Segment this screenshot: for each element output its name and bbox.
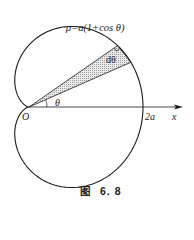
- caption-prefix: 图: [80, 186, 91, 197]
- theta-label: θ: [55, 98, 60, 108]
- x-axis-label: x: [172, 112, 176, 122]
- caption-number: 6. 8: [100, 185, 122, 197]
- origin-label: O: [22, 112, 29, 122]
- d-theta-label: dθ: [106, 55, 116, 65]
- figure-caption: 图6. 8: [80, 186, 122, 198]
- intercept-label: 2a: [145, 112, 155, 122]
- curve-equation-label: ρ=a(1+cos θ): [66, 23, 124, 34]
- theta-angle-arc: [46, 100, 47, 107]
